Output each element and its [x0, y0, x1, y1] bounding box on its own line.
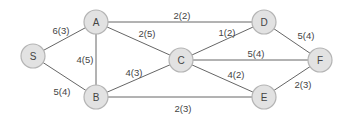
edge-label-a-c: 2(5): [139, 28, 156, 39]
node-e: E: [252, 85, 276, 109]
node-d: D: [252, 10, 276, 34]
edge-label-s-b: 5(4): [54, 86, 71, 97]
node-label: C: [177, 55, 184, 66]
node-f: F: [308, 48, 332, 72]
node-label: F: [317, 55, 323, 66]
node-label: S: [30, 51, 37, 62]
edge-label-a-d: 2(2): [174, 10, 191, 21]
node-a: A: [84, 10, 108, 34]
edge-label-e-f: 2(3): [295, 79, 312, 90]
edge-label-s-a: 6(3): [53, 25, 70, 36]
edge-c-e: [181, 60, 264, 97]
node-label: B: [93, 92, 100, 103]
node-label: D: [260, 17, 267, 28]
edge-label-c-d: 1(2): [219, 27, 236, 38]
flow-network-diagram: 6(3)5(4)4(5)2(2)2(5)4(3)2(3)1(2)5(4)4(2)…: [0, 0, 350, 120]
node-b: B: [84, 85, 108, 109]
edge-label-b-c: 4(3): [126, 67, 143, 78]
node-c: C: [169, 48, 193, 72]
edge-label-c-e: 4(2): [228, 69, 245, 80]
node-label: A: [93, 17, 100, 28]
node-s: S: [21, 44, 45, 68]
node-label: E: [261, 92, 268, 103]
edge-label-d-f: 5(4): [298, 30, 315, 41]
edge-label-b-e: 2(3): [175, 103, 192, 114]
edge-label-c-f: 5(4): [248, 48, 265, 59]
edge-label-a-b: 4(5): [77, 54, 94, 65]
